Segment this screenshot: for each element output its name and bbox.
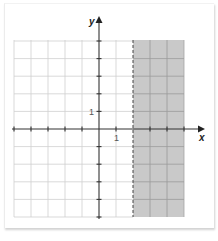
y-axis-arrow-icon [96, 16, 103, 23]
x-axis-label: x [198, 132, 205, 143]
y-tick-label: 1 [89, 107, 94, 117]
y-axis-label: y [88, 16, 95, 27]
coordinate-plane: y x 1 1 [0, 0, 218, 241]
x-tick-label: 1 [114, 133, 119, 143]
